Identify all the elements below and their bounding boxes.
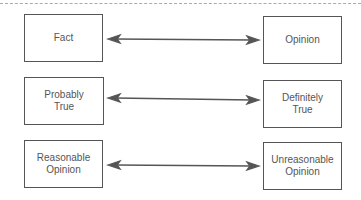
diagram: Fact Opinion Probably True Definitely Tr…: [0, 0, 361, 200]
arrows: [0, 0, 361, 200]
